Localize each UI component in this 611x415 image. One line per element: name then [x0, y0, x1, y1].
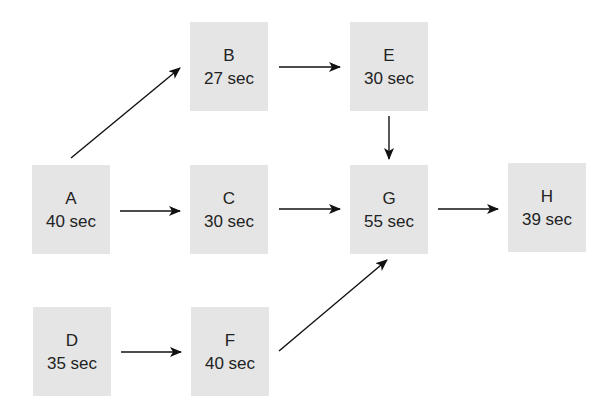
- node-time: 40 sec: [46, 210, 96, 233]
- node-d: D 35 sec: [33, 307, 111, 396]
- edge-f-g: [279, 260, 387, 351]
- node-f: F 40 sec: [191, 307, 269, 396]
- node-time: 35 sec: [47, 352, 97, 375]
- node-label: C: [223, 187, 235, 210]
- node-c: C 30 sec: [190, 165, 268, 254]
- node-label: E: [383, 44, 394, 67]
- node-label: A: [65, 187, 76, 210]
- node-time: 55 sec: [364, 210, 414, 233]
- node-g: G 55 sec: [350, 165, 428, 254]
- node-label: G: [382, 187, 395, 210]
- node-b: B 27 sec: [190, 22, 268, 111]
- node-time: 40 sec: [205, 352, 255, 375]
- node-time: 30 sec: [364, 67, 414, 90]
- node-e: E 30 sec: [350, 22, 428, 111]
- edge-a-b: [71, 68, 180, 158]
- node-time: 27 sec: [204, 67, 254, 90]
- node-a: A 40 sec: [32, 165, 110, 254]
- node-label: B: [223, 44, 234, 67]
- node-h: H 39 sec: [508, 163, 586, 252]
- node-label: D: [66, 329, 78, 352]
- node-label: H: [541, 185, 553, 208]
- node-label: F: [225, 329, 235, 352]
- node-time: 30 sec: [204, 210, 254, 233]
- node-time: 39 sec: [522, 208, 572, 231]
